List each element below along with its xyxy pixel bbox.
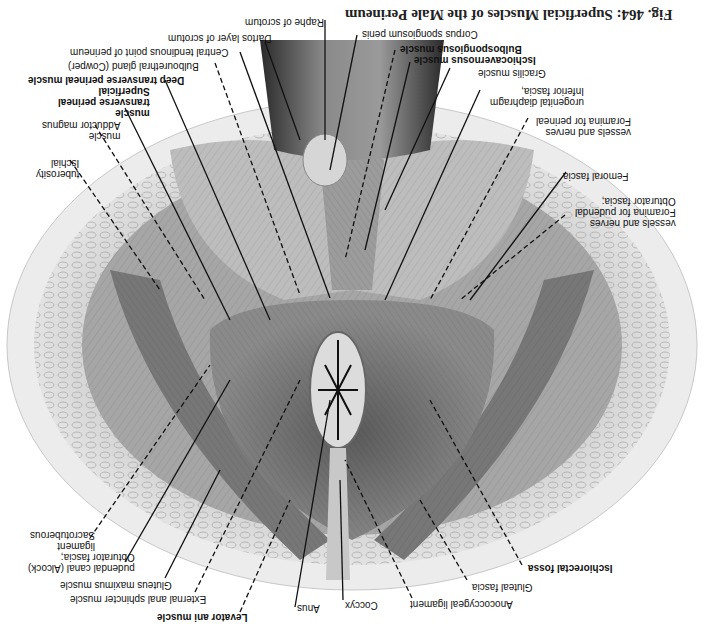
label-dartos-layer: Dartos layer of scrotum <box>168 33 271 44</box>
label-central-tendinous-point: Central tendinous point of perineum <box>70 47 228 58</box>
label-anococcygeal-ligament: Anococcygeal ligament <box>410 599 513 610</box>
label-bulbospongiosus-muscle: Bulbospongiosus muscle <box>400 44 522 55</box>
label-superficial-transverse-perineal: muscle transverse perineal Superficial <box>58 86 150 119</box>
label-gluteus-maximus: Gluteus maximus muscle <box>60 580 172 591</box>
label-foramina-perineal: vessels and nerves Foramina for perineal <box>536 116 631 138</box>
label-ischial-tuberosity: tuberosity Ischial <box>36 158 79 180</box>
label-gracilis-muscle: Gracilis muscle <box>478 68 546 79</box>
label-external-anal-sphincter: External anal sphincter muscle <box>70 594 206 605</box>
label-corpus-spongiosum: Corpus spongiosum penis <box>362 29 478 40</box>
label-pudendal-canal: pudendal canal (Alcock) Obturator fascia… <box>28 552 135 574</box>
label-deep-transverse-perineal: Deep transverse perineal muscle <box>28 75 184 86</box>
figure-title: Fig. 464: Superficial Muscles of the Mal… <box>345 6 672 23</box>
label-levator-ani: Levator ani muscle <box>157 612 248 623</box>
label-gluteal-fascia: Gluteal fascia <box>472 582 533 593</box>
label-coccyx: Coccyx <box>345 600 378 611</box>
label-sacrotuberous-ligament: ligament Sacrotuberous <box>30 530 95 552</box>
label-ischiocavernosus-muscle: Ischiocavernosus muscle <box>414 55 536 66</box>
label-ischiorectal-fossa: Ischiorectal fossa <box>528 563 612 574</box>
label-adductor-magnus: muscle Adductor magnus <box>42 120 120 142</box>
label-bulbourethral-gland: Bulbourethral gland (Cowper) <box>68 61 199 72</box>
figure-page: Fig. 464: Superficial Muscles of the Mal… <box>0 0 704 638</box>
label-anus: Anus <box>297 603 320 614</box>
label-raphe-of-scrotum: Raphe of scrotum <box>245 17 324 28</box>
label-inferior-fascia: urogenital diaphragm Inferior fascia, <box>490 86 584 108</box>
label-obturator-fascia-pudendal: vessels and nerves Foramina for pudendal… <box>575 196 676 229</box>
label-femoral-fascia: Femoral fascia <box>563 171 629 182</box>
